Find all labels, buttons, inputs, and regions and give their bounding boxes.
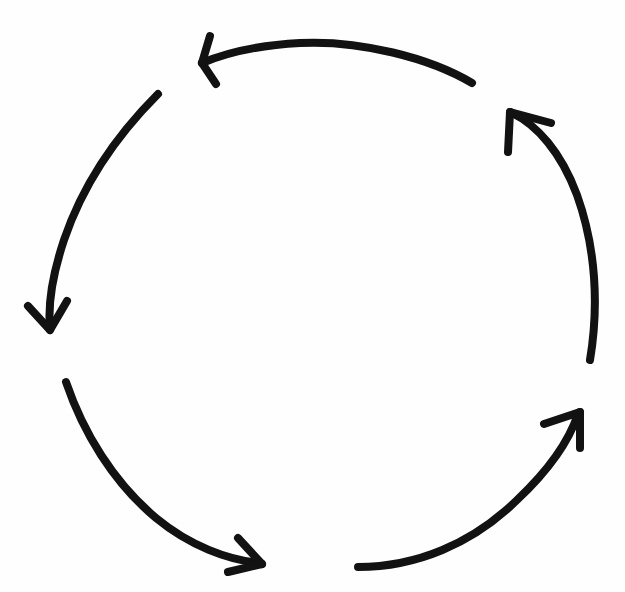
arrow-right-head-right-barb — [510, 112, 551, 123]
arrow-right-head-left-barb — [508, 112, 510, 152]
arrow-left[interactable] — [28, 94, 158, 330]
arrow-bottom-right-shaft — [358, 414, 578, 567]
arrow-bottom-left-shaft — [66, 382, 260, 563]
arrow-bottom-left-head-left-barb — [228, 564, 262, 572]
arrow-right[interactable] — [508, 112, 595, 360]
arrow-top[interactable] — [202, 36, 472, 84]
arrow-right-shaft — [512, 113, 595, 360]
arrow-left-shaft — [50, 94, 158, 328]
arrow-bottom-left[interactable] — [66, 382, 262, 572]
diagram-canvas — [0, 0, 625, 592]
arrow-top-shaft — [202, 43, 472, 83]
cycle-diagram-svg — [0, 0, 625, 592]
arrow-bottom-right[interactable] — [358, 412, 580, 567]
